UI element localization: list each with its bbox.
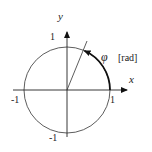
phi-unit: [rad] <box>118 52 137 63</box>
y-tick-neg: -1 <box>49 132 57 143</box>
unit-circle-diagram: y x 1 -1 -1 1 φ [rad] <box>0 0 152 152</box>
phi-symbol: φ <box>101 50 108 64</box>
y-tick-pos: 1 <box>50 31 55 42</box>
x-tick-neg: -1 <box>11 94 19 105</box>
y-axis-label: y <box>57 10 63 22</box>
x-axis-label: x <box>128 73 134 85</box>
x-tick-pos: 1 <box>110 94 115 105</box>
